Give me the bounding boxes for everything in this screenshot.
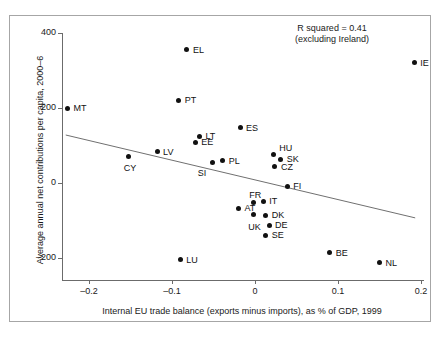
data-point-label-it: IT xyxy=(269,196,277,206)
r-squared-note: (excluding Ireland) xyxy=(295,34,369,45)
r-squared-value: R squared = 0.41 xyxy=(295,23,369,34)
x-tick-label: 0.1 xyxy=(313,286,363,296)
data-point-fi[interactable] xyxy=(285,184,290,189)
x-tick-label: 0.2 xyxy=(396,286,441,296)
x-tick-label: –0.2 xyxy=(64,286,114,296)
data-point-label-mt: MT xyxy=(73,103,86,113)
y-axis-title: Average annual net contributions per cap… xyxy=(35,50,45,270)
data-point-label-uk: UK xyxy=(248,222,261,232)
data-point-cy[interactable] xyxy=(126,154,131,159)
data-point-it[interactable] xyxy=(261,199,266,204)
data-point-fr[interactable] xyxy=(251,200,256,205)
data-point-label-lu: LU xyxy=(186,255,198,265)
data-point-es[interactable] xyxy=(238,125,243,130)
data-point-label-es: ES xyxy=(246,123,258,133)
data-point-label-se: SE xyxy=(272,230,284,240)
data-point-sk[interactable] xyxy=(278,157,283,162)
data-point-ee[interactable] xyxy=(193,140,198,145)
r-squared-annotation: R squared = 0.41 (excluding Ireland) xyxy=(295,23,369,45)
data-point-label-cz: CZ xyxy=(281,162,293,172)
y-tick-label: 200 xyxy=(16,102,56,112)
cropped-caption-sliver xyxy=(0,0,441,8)
data-point-label-si: SI xyxy=(198,168,207,178)
data-point-at[interactable] xyxy=(236,206,241,211)
y-tick-label: –200 xyxy=(16,252,56,262)
x-tick-label: –0.1 xyxy=(147,286,197,296)
data-point-lv[interactable] xyxy=(155,149,160,154)
data-point-label-lt: LT xyxy=(205,131,215,141)
data-point-label-cy: CY xyxy=(124,163,137,173)
data-point-label-fr: FR xyxy=(249,190,261,200)
y-tick-label: 0 xyxy=(16,177,56,187)
data-point-label-hu: HU xyxy=(279,143,292,153)
data-point-lt[interactable] xyxy=(197,134,202,139)
data-point-de[interactable] xyxy=(267,223,272,228)
figure: Average annual net contributions per cap… xyxy=(0,0,441,337)
data-point-se[interactable] xyxy=(263,233,268,238)
x-axis-title: Internal EU trade balance (exports minus… xyxy=(62,306,422,316)
data-point-label-be: BE xyxy=(336,248,348,258)
data-point-pt[interactable] xyxy=(176,98,181,103)
data-point-label-ie: IE xyxy=(420,58,429,68)
chart-frame xyxy=(9,15,431,322)
data-point-label-pt: PT xyxy=(185,95,197,105)
data-point-ie[interactable] xyxy=(412,60,417,65)
data-point-label-lv: LV xyxy=(163,147,173,157)
data-point-mt[interactable] xyxy=(65,106,70,111)
x-tick-label: 0 xyxy=(230,286,280,296)
data-point-label-nl: NL xyxy=(386,258,398,268)
data-point-si[interactable] xyxy=(210,160,215,165)
data-point-label-de: DE xyxy=(275,220,288,230)
data-point-label-dk: DK xyxy=(272,210,285,220)
y-tick-label: 400 xyxy=(16,27,56,37)
data-point-label-el: EL xyxy=(193,45,204,55)
data-point-label-fi: FI xyxy=(293,181,301,191)
data-point-label-pl: PL xyxy=(229,156,240,166)
